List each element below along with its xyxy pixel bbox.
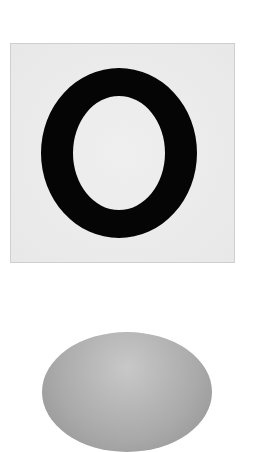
- gray-dome-shape: [42, 332, 212, 452]
- letter-o-glyph: [41, 68, 197, 238]
